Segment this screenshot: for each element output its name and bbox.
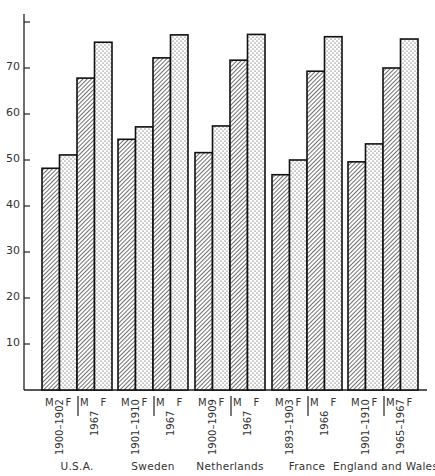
- female-label: F: [372, 397, 378, 408]
- bar-male-early: [195, 153, 213, 390]
- female-label: F: [101, 397, 107, 408]
- female-label: F: [407, 397, 413, 408]
- female-label: F: [142, 397, 148, 408]
- y-tick-label: 50: [0, 152, 20, 165]
- male-label: M: [156, 397, 165, 408]
- male-label: M: [80, 397, 89, 408]
- female-label: F: [177, 397, 183, 408]
- male-label: M: [233, 397, 242, 408]
- bar-male-recent: [383, 68, 401, 390]
- male-label: M: [386, 397, 395, 408]
- bar-male-recent: [153, 58, 171, 390]
- bar-male-early: [272, 175, 290, 390]
- bar-female-early: [136, 127, 154, 390]
- male-label: M: [351, 397, 360, 408]
- bar-male-early: [118, 139, 136, 390]
- bar-female-recent: [248, 34, 266, 390]
- bar-female-recent: [325, 37, 343, 390]
- bar-female-recent: [95, 42, 113, 390]
- period-label: 1893–1903: [284, 399, 295, 455]
- male-label: M: [45, 397, 54, 408]
- period-label: 1901–1910: [130, 399, 141, 455]
- male-label: M: [275, 397, 284, 408]
- female-label: F: [331, 397, 337, 408]
- y-tick-label: 70: [0, 60, 20, 73]
- female-label: F: [219, 397, 225, 408]
- bar-male-recent: [230, 60, 248, 390]
- period-label: 1967: [242, 411, 253, 436]
- male-label: M: [121, 397, 130, 408]
- male-label: M: [198, 397, 207, 408]
- period-label: 1966: [319, 411, 330, 436]
- life-expectancy-bar-chart: 10203040506070MFMF1900–19021967U.S.A.MFM…: [0, 0, 435, 476]
- male-label: M: [310, 397, 319, 408]
- bar-female-early: [366, 144, 384, 390]
- country-label: England and Wales: [333, 460, 433, 472]
- period-label: 1967: [165, 411, 176, 436]
- bar-female-early: [290, 160, 308, 390]
- y-tick-label: 60: [0, 106, 20, 119]
- bar-male-early: [42, 168, 60, 390]
- period-label: 1900–1909: [207, 399, 218, 455]
- y-tick-label: 10: [0, 336, 20, 349]
- y-tick-label: 30: [0, 244, 20, 257]
- female-label: F: [296, 397, 302, 408]
- y-tick-label: 20: [0, 290, 20, 303]
- bar-male-recent: [77, 78, 95, 390]
- bar-male-recent: [307, 71, 325, 390]
- y-tick-label: 40: [0, 198, 20, 211]
- female-label: F: [66, 397, 72, 408]
- bar-female-early: [60, 155, 78, 390]
- bar-female-recent: [401, 39, 419, 390]
- period-label: 1967: [89, 411, 100, 436]
- bar-female-recent: [171, 35, 189, 390]
- period-label: 1900–1902: [54, 399, 65, 455]
- bar-female-early: [213, 126, 231, 390]
- bar-male-early: [348, 162, 366, 390]
- bars: [42, 34, 418, 390]
- period-label: 1965–1967: [395, 399, 406, 455]
- female-label: F: [254, 397, 260, 408]
- period-label: 1901–1910: [360, 399, 371, 455]
